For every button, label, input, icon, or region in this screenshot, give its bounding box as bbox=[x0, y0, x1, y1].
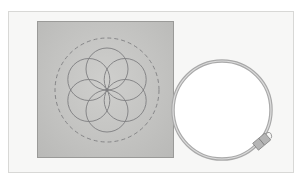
illustration bbox=[0, 0, 302, 180]
embroidery-hoop bbox=[173, 61, 274, 159]
seed-of-life-pattern bbox=[55, 38, 159, 142]
